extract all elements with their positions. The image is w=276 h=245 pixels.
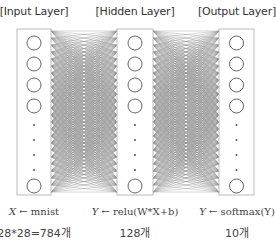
neuron-node bbox=[230, 57, 244, 71]
neuron-node bbox=[230, 99, 244, 113]
ellipsis-dot bbox=[134, 169, 136, 171]
neuron-node bbox=[128, 99, 142, 113]
ellipsis-dot bbox=[236, 139, 238, 141]
formula-arrow: ← bbox=[209, 206, 217, 217]
neuron-node bbox=[230, 36, 244, 50]
formula-rhs: softmax(Y) bbox=[221, 206, 275, 217]
input-neuron-count: 28*28=784개 bbox=[0, 224, 71, 240]
formula-rhs: mnist bbox=[31, 206, 59, 217]
ellipsis-dot bbox=[33, 154, 35, 156]
formula-arrow: ← bbox=[19, 206, 27, 217]
neuron-node bbox=[128, 179, 142, 193]
neuron-node bbox=[128, 57, 142, 71]
neuron-node bbox=[27, 36, 41, 50]
hidden-formula: Y ← relu(W*X+b) bbox=[92, 206, 179, 217]
formula-lhs: Y bbox=[199, 206, 206, 217]
neuron-node bbox=[27, 99, 41, 113]
formula-lhs: Y bbox=[92, 206, 99, 217]
ellipsis-dot bbox=[134, 139, 136, 141]
ellipsis-dot bbox=[33, 139, 35, 141]
neuron-node bbox=[128, 78, 142, 92]
hidden-neuron-count: 128개 bbox=[120, 224, 151, 240]
ellipsis-dot bbox=[236, 169, 238, 171]
output-neuron-count: 10개 bbox=[225, 224, 249, 240]
output-formula: Y ← softmax(Y) bbox=[199, 206, 275, 217]
ellipsis-dot bbox=[33, 124, 35, 126]
ellipsis-dot bbox=[236, 154, 238, 156]
neuron-node bbox=[128, 36, 142, 50]
ellipsis-dot bbox=[33, 169, 35, 171]
ellipsis-dot bbox=[134, 154, 136, 156]
ellipsis-dot bbox=[236, 124, 238, 126]
neuron-node bbox=[230, 78, 244, 92]
formula-lhs: X bbox=[9, 206, 16, 217]
neuron-node bbox=[27, 179, 41, 193]
input-formula: X ← mnist bbox=[9, 206, 59, 217]
neuron-node bbox=[27, 78, 41, 92]
neuron-node bbox=[230, 179, 244, 193]
ellipsis-dot bbox=[134, 124, 136, 126]
formula-arrow: ← bbox=[101, 206, 109, 217]
neuron-node bbox=[27, 57, 41, 71]
formula-rhs: relu(W*X+b) bbox=[113, 206, 178, 217]
